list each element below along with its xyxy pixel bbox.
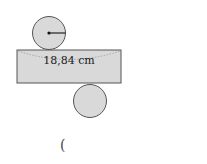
parenthesis-mark: ( xyxy=(60,137,65,153)
circumference-label: 18,84 cm xyxy=(43,54,95,67)
bottom-circle-base xyxy=(74,85,107,118)
cylinder-net-diagram: 18,84 cm ( xyxy=(0,0,207,164)
